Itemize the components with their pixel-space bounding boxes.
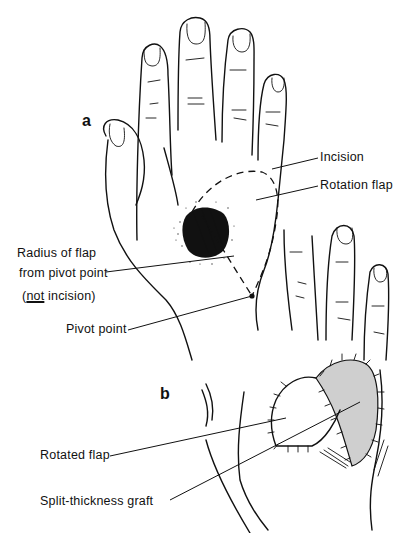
label-rotated-flap: Rotated flap [40, 448, 110, 462]
leader-rotation-flap [256, 186, 318, 200]
label-pivot-point: Pivot point [66, 322, 127, 336]
panel-label-b: b [160, 385, 170, 403]
label-rotation-flap: Rotation flap [320, 178, 393, 192]
hand-a-outline [104, 18, 287, 360]
leader-radius [106, 256, 234, 272]
hand-flap-diagram: a b Incision Rotation flap Radius of fla… [0, 0, 403, 533]
hand-b-outline [202, 226, 389, 533]
leader-rotated-flap [110, 418, 286, 456]
panel-label-a: a [82, 112, 91, 130]
not-underlined: not [26, 289, 44, 303]
leader-pivot [128, 296, 252, 330]
label-radius-line2: from pivot point [19, 266, 108, 280]
label-split-thickness-graft: Split-thickness graft [40, 494, 153, 508]
leader-incision [272, 158, 318, 169]
label-radius-line1: Radius of flap [17, 246, 96, 260]
label-incision: Incision [320, 150, 364, 164]
leader-graft [170, 402, 360, 500]
label-not-incision: (not incision) [22, 289, 96, 303]
